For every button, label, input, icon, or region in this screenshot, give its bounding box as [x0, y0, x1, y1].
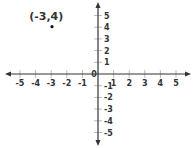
y-tick-label: -4 [104, 117, 113, 126]
y-tick-label: -3 [104, 105, 113, 114]
origin-label: 0 [91, 70, 97, 79]
y-tick-label: 1 [104, 58, 110, 67]
x-tick-label: 5 [173, 79, 179, 88]
y-tick-label: -1 [104, 82, 113, 91]
x-tick-label: -5 [16, 79, 25, 88]
axes [5, 2, 191, 146]
x-tick-label: -3 [47, 79, 56, 88]
x-tick-label: 2 [126, 79, 132, 88]
y-axis-arrow-down-icon [96, 140, 101, 146]
y-tick-label: 5 [104, 12, 110, 21]
x-tick-label: 3 [142, 79, 148, 88]
coordinate-plane: -5-4-3-2-11234554321-1-2-3-4-5 0 (-3,4) [0, 0, 196, 148]
x-tick-label: -2 [62, 79, 71, 88]
point-label: (-3,4) [29, 10, 63, 23]
x-axis-arrow-left-icon [5, 72, 11, 77]
data-point [50, 25, 53, 28]
data-points: (-3,4) [29, 10, 63, 28]
x-tick-label: -4 [31, 79, 40, 88]
y-tick-label: 4 [104, 23, 110, 32]
x-tick-label: 4 [158, 79, 164, 88]
x-tick-label: -1 [78, 79, 87, 88]
y-tick-label: -5 [104, 129, 113, 138]
x-axis-arrow-right-icon [185, 72, 191, 77]
y-axis-arrow-up-icon [96, 2, 101, 8]
y-tick-label: -2 [104, 93, 113, 102]
y-tick-label: 2 [104, 47, 110, 56]
y-tick-label: 3 [104, 35, 110, 44]
